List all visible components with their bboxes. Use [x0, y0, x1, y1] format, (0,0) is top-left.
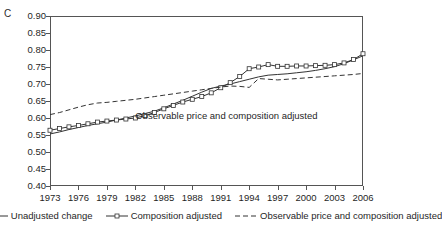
x-tick-label: 2006	[343, 192, 383, 203]
x-tick	[107, 186, 108, 190]
series-marker	[247, 67, 251, 71]
solid-line-square-marker-icon	[106, 211, 128, 221]
x-tick	[78, 186, 79, 190]
y-tick-label: 0.55	[12, 129, 46, 140]
y-tick-label: 0.70	[12, 78, 46, 89]
series-marker	[323, 63, 327, 67]
series-marker	[190, 97, 194, 101]
y-tick-label: 0.65	[12, 95, 46, 106]
series-marker	[114, 118, 118, 122]
y-tick-label: 0.50	[12, 146, 46, 157]
chart-legend: Unadjusted changeComposition adjustedObs…	[0, 210, 428, 221]
series-marker	[314, 64, 318, 68]
y-tick-label: 0.60	[12, 112, 46, 123]
legend-label: Composition adjusted	[131, 210, 222, 221]
series-marker	[48, 128, 52, 132]
series-layer	[50, 16, 363, 186]
series-marker	[200, 95, 204, 99]
series-marker	[105, 119, 109, 123]
series-marker	[304, 64, 308, 68]
series-marker	[171, 103, 175, 107]
legend-label: Unadjusted change	[11, 210, 93, 221]
x-tick	[278, 186, 279, 190]
y-tick-label: 0.40	[12, 180, 46, 191]
x-tick	[221, 186, 222, 190]
series-marker	[295, 64, 299, 68]
x-tick	[363, 186, 364, 190]
y-tick-label: 0.45	[12, 163, 46, 174]
legend-item[interactable]: Composition adjusted	[106, 210, 222, 221]
legend-item[interactable]: Unadjusted change	[0, 210, 93, 221]
series-marker	[333, 63, 337, 67]
series-marker	[352, 58, 356, 62]
series-marker	[86, 122, 90, 126]
chart-annotation: Observable price and composition adjuste…	[135, 110, 317, 121]
legend-item[interactable]: Observable price and composition adjuste…	[235, 210, 442, 221]
y-tick-label: 0.75	[12, 61, 46, 72]
x-tick	[192, 186, 193, 190]
series-marker	[257, 65, 261, 69]
series-marker	[361, 52, 365, 56]
series-marker	[181, 100, 185, 104]
series-marker	[342, 61, 346, 65]
series-marker	[67, 125, 71, 129]
series-marker	[209, 91, 213, 95]
x-tick	[306, 186, 307, 190]
y-tick-label: 0.90	[12, 10, 46, 21]
x-tick	[335, 186, 336, 190]
series-marker	[95, 120, 99, 124]
x-tick	[164, 186, 165, 190]
solid-line-icon	[0, 211, 8, 221]
series-marker	[276, 64, 280, 68]
series-marker	[285, 64, 289, 68]
y-tick-label: 0.85	[12, 27, 46, 38]
panel-label: C	[4, 8, 11, 19]
series-marker	[76, 123, 80, 127]
y-tick-label: 0.80	[12, 44, 46, 55]
x-tick	[249, 186, 250, 190]
series-marker	[124, 117, 128, 121]
x-tick	[135, 186, 136, 190]
legend-label: Observable price and composition adjuste…	[260, 210, 442, 221]
series-marker	[266, 63, 270, 67]
series-marker	[238, 75, 242, 79]
series-line	[50, 73, 363, 114]
x-tick	[50, 186, 51, 190]
plot-area: 0.900.850.800.750.700.650.600.550.500.45…	[50, 16, 363, 186]
dashed-line-icon	[235, 211, 257, 221]
series-marker	[228, 81, 232, 85]
series-marker	[57, 127, 61, 131]
